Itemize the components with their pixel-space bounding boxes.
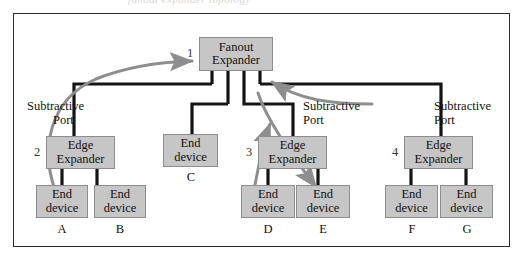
end-device-g-line1: End: [456, 188, 476, 202]
subtractive-port-left-line2: Port: [27, 113, 84, 127]
fanout-expander-node[interactable]: Fanout Expander: [199, 37, 273, 71]
edge-expander-4-index: 4: [392, 145, 398, 160]
edge-expander-3-node[interactable]: Edge Expander: [258, 136, 327, 169]
subtractive-port-middle-line2: Port: [303, 113, 360, 127]
end-device-c-node[interactable]: End device: [163, 134, 218, 167]
edge-expander-2-index: 2: [34, 145, 40, 160]
end-device-c-label: C: [171, 170, 211, 185]
edge-expander-4-node[interactable]: Edge Expander: [404, 136, 473, 169]
end-device-e-line1: End: [313, 188, 333, 202]
edge-expander-2-line2: Expander: [57, 153, 105, 167]
subtractive-port-right-line2: Port: [434, 113, 491, 127]
end-device-a-line2: device: [46, 202, 79, 216]
end-device-e-line2: device: [307, 202, 340, 216]
figure-canvas: fanout expander topology: [0, 0, 523, 261]
end-device-g-node[interactable]: End device: [440, 185, 493, 218]
edge-expander-3-line2: Expander: [269, 153, 317, 167]
subtractive-port-label-left: Subtractive Port: [27, 99, 84, 127]
end-device-e-node[interactable]: End device: [296, 185, 350, 218]
edge-expander-3-line1: Edge: [280, 139, 306, 153]
end-device-d-line1: End: [258, 188, 278, 202]
end-device-c-line2: device: [174, 151, 207, 165]
edge-expander-4-line1: Edge: [426, 139, 452, 153]
fanout-expander-line2: Expander: [212, 54, 260, 68]
end-device-c-line1: End: [180, 137, 200, 151]
subtractive-port-middle-line1: Subtractive: [303, 99, 360, 113]
end-device-d-label: D: [248, 222, 288, 237]
end-device-d-line2: device: [252, 202, 285, 216]
end-device-a-line1: End: [52, 188, 72, 202]
end-device-b-node[interactable]: End device: [94, 185, 146, 218]
edge-expander-4-line2: Expander: [415, 153, 463, 167]
end-device-f-label: F: [392, 222, 432, 237]
subtractive-port-label-right: Subtractive Port: [434, 99, 491, 127]
end-device-b-label: B: [100, 222, 140, 237]
end-device-a-node[interactable]: End device: [36, 185, 88, 218]
end-device-e-label: E: [303, 222, 343, 237]
edge-expander-2-node[interactable]: Edge Expander: [46, 136, 115, 169]
end-device-g-label: G: [447, 222, 487, 237]
end-device-b-line2: device: [104, 202, 137, 216]
subtractive-port-label-middle: Subtractive Port: [303, 99, 360, 127]
end-device-d-node[interactable]: End device: [241, 185, 295, 218]
subtractive-port-left-line1: Subtractive: [27, 99, 84, 113]
subtractive-port-right-line1: Subtractive: [434, 99, 491, 113]
edge-expander-3-index: 3: [246, 145, 252, 160]
fanout-expander-index: 1: [187, 46, 193, 61]
end-device-f-line2: device: [395, 202, 428, 216]
end-device-f-node[interactable]: End device: [385, 185, 438, 218]
end-device-b-line1: End: [110, 188, 130, 202]
end-device-a-label: A: [42, 222, 82, 237]
end-device-g-line2: device: [450, 202, 483, 216]
edge-expander-2-line1: Edge: [68, 139, 94, 153]
fanout-expander-line1: Fanout: [219, 41, 254, 55]
end-device-f-line1: End: [401, 188, 421, 202]
